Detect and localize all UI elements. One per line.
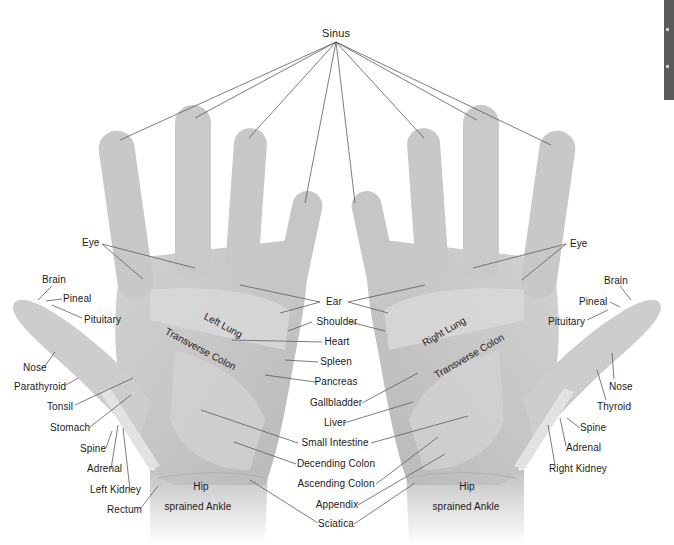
label-left-sprained-ankle: sprained Ankle	[164, 501, 231, 513]
label-left-eye: Eye	[82, 237, 100, 249]
label-right-kidney: Right Kidney	[549, 463, 607, 475]
label-right-sprained-ankle: sprained Ankle	[432, 501, 499, 513]
label-right-brain: Brain	[604, 275, 628, 287]
label-right-nose: Nose	[609, 381, 633, 393]
label-ascending-colon: Ascending Colon	[297, 478, 374, 490]
label-right-spine: Spine	[580, 422, 606, 434]
label-sinus: Sinus	[322, 27, 350, 39]
label-heart: Heart	[325, 336, 350, 348]
label-right-hip: Hip	[459, 481, 474, 493]
label-appendix: Appendix	[316, 499, 359, 511]
label-ear: Ear	[326, 296, 342, 308]
label-left-brain: Brain	[42, 274, 66, 286]
label-right-pineal: Pineal	[579, 296, 607, 308]
label-left-hip: Hip	[193, 481, 208, 493]
label-decending-colon: Decending Colon	[297, 458, 375, 470]
label-left-spine: Spine	[80, 443, 106, 455]
label-left-nose: Nose	[23, 362, 47, 374]
label-parathyroid: Parathyroid	[14, 381, 66, 393]
label-tonsil: Tonsil	[47, 401, 73, 413]
label-rectum: Rectum	[107, 504, 142, 516]
label-left-adrenal: Adrenal	[87, 463, 122, 475]
reflexology-diagram: Sinus Eye Brain Pineal Pituitary Nose Pa…	[0, 0, 674, 545]
label-shoulder: Shoulder	[317, 316, 358, 328]
label-spleen: Spleen	[320, 356, 352, 368]
label-pancreas: Pancreas	[314, 376, 357, 388]
label-liver: Liver	[324, 417, 346, 429]
label-gallbladder: Gallbladder	[310, 397, 362, 409]
label-left-pituitary: Pituitary	[84, 314, 121, 326]
label-stomach: Stomach	[50, 422, 90, 434]
label-thyroid: Thyroid	[597, 401, 631, 413]
right-hand	[349, 105, 661, 545]
label-small-intestine: Small Intestine	[301, 437, 368, 449]
label-right-adrenal: Adrenal	[566, 442, 601, 454]
label-left-kidney: Left Kidney	[90, 484, 141, 496]
side-panel-tab[interactable]	[664, 0, 674, 100]
label-right-eye: Eye	[570, 238, 588, 250]
label-left-pineal: Pineal	[63, 293, 91, 305]
label-sciatica: Sciatica	[318, 518, 354, 530]
label-right-pituitary: Pituitary	[548, 316, 585, 328]
